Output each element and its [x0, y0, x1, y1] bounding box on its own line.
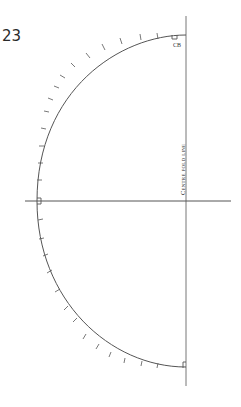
centre-fold-label: Centre fold line — [179, 144, 186, 195]
pattern-piece-drawing — [0, 0, 241, 407]
centre-back-label: CB — [173, 42, 181, 48]
